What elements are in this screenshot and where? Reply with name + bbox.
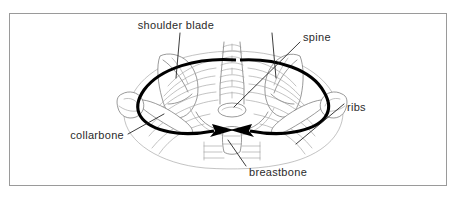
label-spine: spine: [303, 31, 331, 43]
labels: shoulder blade spine ribs collarbone bre…: [70, 19, 366, 178]
label-ribs: ribs: [347, 101, 366, 113]
figure-root: shoulder blade spine ribs collarbone bre…: [0, 0, 457, 200]
label-shoulder-blade: shoulder blade: [138, 19, 214, 31]
spine-vertebrae: [218, 42, 246, 117]
label-breastbone: breastbone: [249, 166, 307, 178]
label-collarbone: collarbone: [70, 129, 124, 141]
anatomy-diagram: shoulder blade spine ribs collarbone bre…: [0, 0, 457, 200]
